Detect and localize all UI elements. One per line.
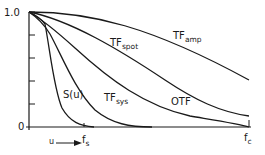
- label-tf-amp-main: TF: [173, 30, 185, 41]
- curve-otf: [29, 12, 249, 127]
- label-s-u: S(u): [63, 90, 84, 100]
- label-tf-spot: TFspot: [110, 38, 138, 48]
- label-tf-sys-sub: sys: [116, 97, 128, 106]
- label-fc-sub: c: [248, 137, 252, 146]
- label-fc-main: f: [244, 132, 248, 143]
- label-tf-amp-sub: amp: [185, 35, 202, 44]
- chart-plot: [0, 0, 265, 155]
- label-fs-sub: s: [86, 139, 90, 148]
- curve-tf-spot: [29, 12, 249, 116]
- label-tf-sys-main: TF: [104, 92, 116, 103]
- y-label-zero: 0: [18, 122, 24, 132]
- label-tf-amp: TFamp: [173, 31, 202, 41]
- curve-tf-sys: [29, 12, 152, 127]
- label-fs-main: f: [82, 134, 86, 145]
- label-fc: fc: [244, 133, 252, 143]
- label-fs: fs: [82, 135, 89, 145]
- label-tf-sys: TFsys: [104, 93, 128, 103]
- u-arrow-head-icon: [74, 140, 82, 146]
- label-otf: OTF: [171, 97, 191, 107]
- label-tf-spot-sub: spot: [122, 42, 138, 51]
- y-label-top: 1.0: [4, 8, 20, 18]
- label-tf-spot-main: TF: [110, 37, 122, 48]
- curve-s-u: [29, 12, 94, 127]
- label-u: u: [49, 138, 54, 146]
- y-ticks: [29, 12, 35, 104]
